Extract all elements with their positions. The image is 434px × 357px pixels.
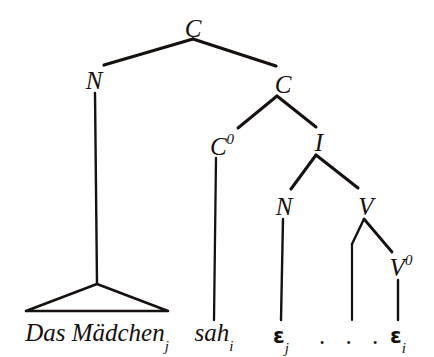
node-category-vmax: V (358, 194, 373, 219)
node-label: V (390, 254, 405, 281)
node-superscript: 0 (227, 130, 235, 146)
tree-node-subj_n: N (276, 194, 293, 219)
node-label: C (210, 133, 227, 160)
node-label: I (315, 129, 323, 156)
tree-branch-ibar-to-subj-n (291, 155, 316, 189)
tree-branch-vmax-to-gap (352, 219, 364, 244)
node-category-cbar: C (275, 72, 292, 97)
tree-node-c_head: C0 (210, 134, 234, 159)
terminal-sah: sahi (195, 320, 234, 345)
terminal-index: i (402, 340, 406, 356)
terminal-index: i (229, 338, 233, 354)
tree-branch-cbar-to-c-head (238, 96, 277, 128)
tree-branch-subj-n-to-eps-j (281, 219, 283, 320)
tree-node-vmax: V (358, 194, 373, 219)
node-label: N (86, 67, 103, 94)
terminal-trace-i: εi (390, 322, 406, 347)
np-triangle (26, 284, 168, 311)
node-category-c_head: C0 (210, 134, 234, 159)
node-category-subj_n: N (276, 194, 293, 219)
terminal-das-maedchen: Das Mädchenj (25, 320, 169, 345)
tree-branch-root-to-cbar (193, 39, 276, 66)
terminal-text: sah (195, 319, 230, 346)
tree-node-root: C (185, 16, 202, 41)
tree-branch-c-head-to-sah (214, 158, 216, 320)
terminal-index: j (285, 340, 289, 356)
terminal-text: ε (390, 324, 402, 348)
tree-branch-ibar-to-vmax (316, 155, 358, 188)
tree-node-spec_n: N (86, 68, 103, 93)
terminal-trace-j: εj (273, 322, 289, 347)
tree-node-cbar: C (275, 72, 292, 97)
tree-branch-spec-n-to-np (95, 93, 97, 284)
tree-diagram-canvas: CNCC0INVV0 Das Mädchenjsahiεj. . .εi (0, 0, 434, 357)
terminal-text: Das Mädchen (25, 319, 165, 346)
node-category-root: C (185, 16, 202, 41)
node-label: N (276, 193, 293, 220)
node-label: C (275, 71, 292, 98)
terminal-index: j (165, 338, 169, 354)
tree-node-v_head: V0 (390, 255, 413, 280)
tree-branch-vmax-to-v-head (364, 219, 392, 252)
node-label: C (185, 15, 202, 42)
tree-node-ibar: I (315, 130, 323, 155)
node-category-spec_n: N (86, 68, 103, 93)
terminal-ellipsis: . . . (319, 322, 385, 350)
tree-branch-cbar-to-ibar (277, 96, 316, 127)
node-category-ibar: I (315, 130, 323, 155)
node-label: V (358, 193, 373, 220)
node-superscript: 0 (405, 251, 413, 267)
tree-branches-layer (0, 0, 434, 357)
terminal-text: ε (273, 324, 285, 348)
node-category-v_head: V0 (390, 255, 413, 280)
tree-branch-root-to-spec-n (104, 39, 193, 65)
